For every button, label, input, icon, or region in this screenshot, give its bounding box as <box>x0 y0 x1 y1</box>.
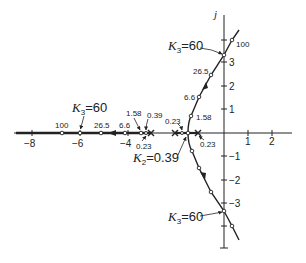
tick-label-real-neg4: −4 <box>120 138 132 149</box>
k3-annotation-bottom: K3=60 <box>167 209 203 226</box>
tick-label-imag-3: 3 <box>229 57 235 68</box>
root-locus-diagram: j −8 −6 −4 1 2 3 2 1 −1 −2 −3 <box>0 0 306 263</box>
tick-label-real-neg8: −8 <box>24 138 36 149</box>
tick-label-real-1: 1 <box>245 136 251 147</box>
tick-label-imag-1: 1 <box>229 104 235 115</box>
gain-label-real-6-6: 6.6 <box>119 121 131 130</box>
arrow-lower-icon <box>200 172 206 180</box>
root-locus-plot: j −8 −6 −4 1 2 3 2 1 −1 −2 −3 <box>0 0 306 263</box>
gain-label-real-1-58: 1.58 <box>126 109 142 118</box>
tick-label-imag-2: 2 <box>229 81 235 92</box>
imag-axis-label: j <box>212 8 217 20</box>
gain-label-real-0-39: 0.39 <box>147 111 163 120</box>
tick-label-imag-neg1: −1 <box>229 151 241 162</box>
k3-annotation-left: K3=60 <box>71 100 107 117</box>
gain-label-upper-26-5: 26.5 <box>193 67 209 76</box>
gain-label-real-100: 100 <box>55 121 69 130</box>
gain-label-real-26-5: 26.5 <box>94 121 110 130</box>
gain-label-upper-100: 100 <box>236 40 250 49</box>
gain-label-right-0-23: 0.23 <box>200 140 216 149</box>
gain-label-upper-6-6: 6.6 <box>184 93 196 102</box>
tick-label-real-2: 2 <box>269 136 275 147</box>
k2-annotation: K2=0.39 <box>132 150 179 167</box>
tick-label-imag-neg2: −2 <box>229 175 241 186</box>
tick-label-real-neg6: −6 <box>72 138 84 149</box>
gain-label-upper-1-58: 1.58 <box>196 113 212 122</box>
arrow-real-left-icon <box>108 130 116 136</box>
k3-annotation-top: K3=60 <box>167 38 203 55</box>
tick-label-imag-neg3: −3 <box>229 198 241 209</box>
